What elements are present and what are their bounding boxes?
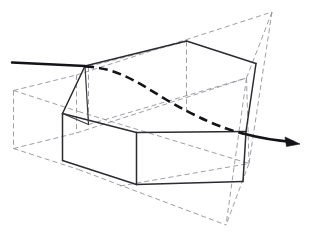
construction-line-lower-long-bottom: [79, 170, 227, 226]
figure-canvas: [0, 0, 315, 235]
construction-line-left-bottom-diagonal: [14, 149, 79, 170]
solid-edge-right-vertical: [243, 132, 246, 182]
solid-edge-front-bottom-long: [137, 182, 244, 185]
construction-line-left-face-top: [14, 75, 77, 91]
line-drawing-svg: [0, 0, 315, 235]
solid-edge-top-left-to-left-corner: [63, 66, 86, 114]
solid-edge-front-top-long: [137, 132, 247, 133]
construction-line-left-face-bottom: [14, 133, 77, 149]
outer-construction-wireframe: [14, 12, 273, 225]
ray-direction-arrowhead: [285, 137, 300, 147]
ray-visible-entry-segment: [12, 63, 85, 67]
ray-hidden-internal-segment: [85, 67, 243, 134]
construction-line-right-lower-edge: [226, 164, 249, 226]
solid-edge-inner-left-vertical: [85, 66, 89, 125]
construction-line-apex-to-upper-right: [247, 12, 273, 78]
solid-edge-top-right-to-right-corner: [246, 64, 256, 132]
construction-line-lower-long-mid: [79, 112, 250, 164]
solid-edge-left-bottom-diagonal: [63, 161, 137, 185]
solid-edge-top-left-to-top-mid: [85, 41, 187, 66]
construction-line-upper-long-mid: [77, 78, 247, 133]
solid-edge-left-corner-to-front-corner: [63, 114, 137, 133]
solid-edge-top-mid-to-top-right: [187, 41, 257, 64]
inner-solid-prism: [63, 41, 257, 185]
construction-line-right-cross-edge: [226, 78, 247, 225]
